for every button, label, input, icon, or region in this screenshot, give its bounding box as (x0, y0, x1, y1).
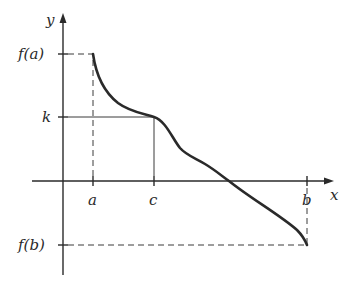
y-axis (60, 13, 67, 275)
x-axis (32, 178, 334, 185)
label-k: k (42, 108, 51, 126)
label-b: b (302, 191, 312, 209)
y-axis-label: y (45, 11, 55, 29)
ivt-diagram: y x f(a) k f(b) a c b (0, 0, 354, 283)
label-c: c (149, 191, 158, 209)
label-fb: f(b) (17, 236, 45, 254)
function-curve (93, 54, 307, 245)
x-axis-label: x (330, 186, 339, 204)
label-fa: f(a) (17, 45, 44, 63)
label-a: a (88, 191, 97, 209)
